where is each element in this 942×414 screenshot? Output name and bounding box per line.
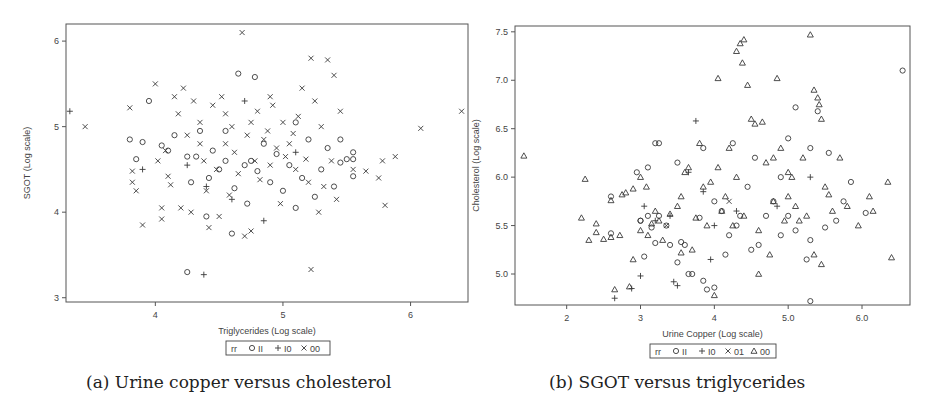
- marker-plus: [184, 162, 190, 168]
- marker-cross: [393, 154, 398, 159]
- marker-cross: [130, 169, 135, 174]
- marker-circle: [863, 210, 868, 215]
- marker-cross: [181, 86, 186, 91]
- marker-circle: [786, 136, 791, 141]
- marker-triangle: [586, 237, 592, 242]
- marker-circle: [127, 137, 132, 142]
- marker-circle: [834, 218, 839, 223]
- marker-circle: [312, 194, 317, 199]
- marker-circle: [351, 174, 356, 179]
- marker-plus: [293, 149, 299, 155]
- marker-triangle: [630, 256, 636, 261]
- marker-circle: [808, 145, 813, 150]
- marker-cross: [325, 57, 330, 62]
- marker-triangle: [700, 184, 706, 189]
- marker-circle: [232, 186, 237, 191]
- marker-circle: [675, 160, 680, 165]
- marker-triangle: [756, 271, 762, 276]
- y-tick-label: 5.5: [495, 221, 508, 231]
- marker-plus: [708, 256, 714, 262]
- y-tick-label: 4: [54, 207, 59, 217]
- marker-cross: [329, 158, 334, 163]
- marker-triangle: [678, 250, 684, 255]
- marker-cross: [210, 103, 215, 108]
- marker-cross: [376, 175, 381, 180]
- legend-entry-label: 01: [734, 347, 744, 357]
- marker-circle: [206, 175, 211, 180]
- marker-cross: [83, 124, 88, 129]
- marker-triangle: [837, 155, 843, 160]
- marker-circle: [704, 287, 709, 292]
- marker-circle: [804, 257, 809, 262]
- marker-cross: [268, 163, 273, 168]
- legend-entry-label: I0: [708, 347, 716, 357]
- marker-cross: [309, 56, 314, 61]
- x-tick-label: 5.0: [782, 313, 795, 323]
- marker-circle: [682, 242, 687, 247]
- marker-circle: [900, 68, 905, 73]
- marker-circle: [778, 233, 783, 238]
- marker-triangle: [578, 215, 584, 220]
- marker-circle: [675, 260, 680, 265]
- marker-cross: [240, 30, 245, 35]
- marker-triangle: [866, 194, 872, 199]
- marker-circle: [236, 71, 241, 76]
- scatter-plot-b: 2345.06.05.05.56.06.57.07.5Urine Copper …: [471, 0, 942, 370]
- marker-cross: [155, 158, 160, 163]
- marker-cross: [291, 131, 296, 136]
- marker-triangle: [759, 119, 765, 124]
- marker-cross: [312, 98, 317, 103]
- marker-circle: [338, 160, 343, 165]
- marker-cross: [268, 94, 273, 99]
- marker-triangle: [870, 208, 876, 213]
- marker-circle: [778, 175, 783, 180]
- marker-triangle: [638, 227, 644, 232]
- marker-triangle: [601, 236, 607, 241]
- marker-circle: [197, 128, 202, 133]
- marker-triangle: [521, 153, 527, 158]
- y-tick-label: 6.5: [495, 124, 508, 134]
- marker-triangle: [643, 184, 649, 189]
- marker-circle: [826, 150, 831, 155]
- marker-cross: [185, 133, 190, 138]
- marker-plus: [641, 203, 647, 209]
- y-tick-label: 3: [54, 293, 59, 303]
- marker-triangle: [818, 261, 824, 266]
- marker-circle: [808, 299, 813, 304]
- marker-plus: [242, 98, 248, 104]
- marker-circle: [223, 128, 228, 133]
- marker-cross: [334, 197, 339, 202]
- marker-triangle: [807, 32, 813, 37]
- marker-triangle: [678, 194, 684, 199]
- marker-circle: [808, 237, 813, 242]
- marker-circle: [331, 184, 336, 189]
- marker-cross: [287, 141, 292, 146]
- marker-circle: [194, 154, 199, 159]
- marker-cross: [727, 199, 732, 204]
- marker-circle: [351, 150, 356, 155]
- marker-circle: [338, 137, 343, 142]
- marker-circle: [638, 218, 643, 223]
- marker-cross: [293, 167, 298, 172]
- marker-triangle: [645, 232, 651, 237]
- marker-plus: [711, 223, 717, 229]
- marker-cross: [309, 267, 314, 272]
- marker-plus: [671, 279, 677, 285]
- marker-cross: [296, 114, 301, 119]
- marker-plus: [261, 218, 267, 224]
- marker-plus: [674, 283, 680, 289]
- marker-cross: [223, 111, 228, 116]
- marker-cross: [338, 109, 343, 114]
- marker-cross: [351, 167, 356, 172]
- marker-triangle: [822, 184, 828, 189]
- marker-triangle: [800, 155, 806, 160]
- marker-cross: [383, 203, 388, 208]
- marker-plus: [638, 273, 644, 279]
- marker-circle: [723, 252, 728, 257]
- marker-cross: [229, 124, 234, 129]
- x-tick-label: 6.0: [856, 313, 869, 323]
- marker-circle: [252, 74, 257, 79]
- marker-cross: [300, 86, 305, 91]
- x-tick-label: 6: [408, 310, 413, 320]
- marker-cross: [168, 182, 173, 187]
